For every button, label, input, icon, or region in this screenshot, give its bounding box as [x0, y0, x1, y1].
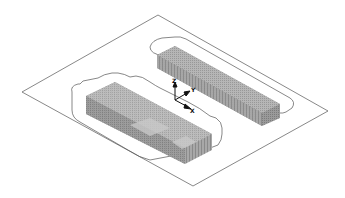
- left-block: [86, 82, 212, 164]
- axis-z-label: Z: [172, 77, 177, 84]
- cad-viewport[interactable]: Z Y X: [0, 0, 345, 198]
- axis-x-label: X: [190, 107, 195, 114]
- axis-y-label: Y: [190, 86, 196, 93]
